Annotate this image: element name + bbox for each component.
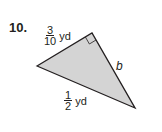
- hypotenuse-denominator: 2: [65, 101, 71, 111]
- side-b-label: b: [116, 59, 123, 73]
- right-triangle-figure: [0, 0, 162, 132]
- side-a-unit: yd: [59, 30, 71, 42]
- hypotenuse-label: 1 2 yd: [64, 90, 87, 111]
- side-a-denominator: 10: [44, 36, 56, 46]
- hypotenuse-unit: yd: [75, 95, 87, 107]
- side-a-label: 3 10 yd: [44, 25, 71, 46]
